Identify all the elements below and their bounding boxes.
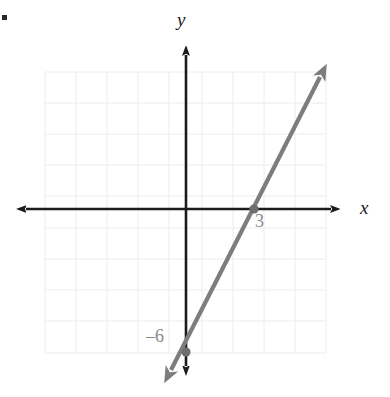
- graph-figure: y x 3 –6: [0, 0, 390, 397]
- y-axis-label: y: [177, 10, 185, 29]
- x-axis-label: x: [360, 198, 368, 217]
- y-intercept-point: [181, 347, 190, 356]
- x-intercept-label: 3: [255, 212, 264, 230]
- y-intercept-label: –6: [146, 327, 164, 345]
- plotted-line: [171, 77, 320, 370]
- coordinate-plane: [0, 0, 390, 397]
